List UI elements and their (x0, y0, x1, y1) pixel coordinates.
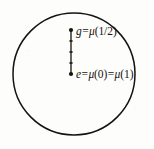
segment-endpoint-dot-bottom (69, 72, 73, 76)
label-e-close-paren-first: ) (103, 68, 107, 80)
segment-endpoint-dot-top (69, 28, 73, 32)
label-e-equals-second: = (108, 68, 114, 80)
label-identity-e: e=μ(0)=μ(1) (76, 69, 133, 81)
label-e-lhs: e (76, 68, 81, 80)
figure-canvas: g=μ(1/2) e=μ(0)=μ(1) (0, 0, 154, 149)
label-generator-g: g=μ(1/2) (76, 26, 117, 38)
label-g-equals: = (82, 25, 88, 37)
label-g-close-paren: ) (113, 25, 117, 37)
label-e-close-paren-second: ) (130, 68, 134, 80)
label-e-equals-first: = (82, 68, 88, 80)
label-g-argument: 1/2 (98, 25, 112, 37)
label-g-lhs: g (76, 25, 82, 37)
